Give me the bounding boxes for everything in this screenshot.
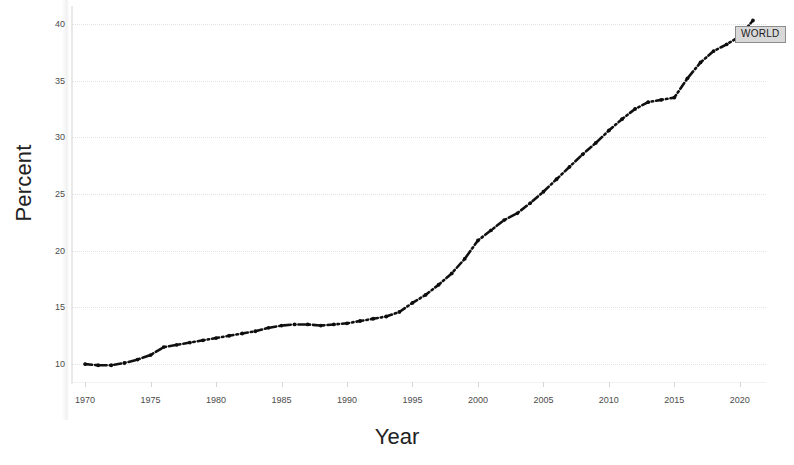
data-point (437, 283, 441, 287)
x-tick-mark (609, 382, 610, 387)
x-tick-label: 1975 (141, 395, 161, 405)
data-point (175, 343, 179, 347)
data-point (240, 332, 244, 336)
x-tick-mark (740, 382, 741, 387)
data-point (646, 100, 650, 104)
data-point (188, 341, 192, 345)
data-point (293, 323, 297, 327)
data-point (686, 76, 690, 80)
data-point (463, 257, 467, 261)
data-point (672, 96, 676, 100)
x-tick-mark (412, 382, 413, 387)
x-tick-label: 1980 (206, 395, 226, 405)
x-tick-label: 1985 (271, 395, 291, 405)
series-world-path (85, 20, 753, 365)
x-axis-spine (72, 382, 766, 383)
data-point (555, 177, 559, 181)
data-point (280, 324, 284, 328)
x-tick-mark (347, 382, 348, 387)
x-tick-label: 2005 (533, 395, 553, 405)
x-axis-title: Year (0, 424, 794, 450)
data-point (149, 353, 153, 357)
y-axis-title: Percent (11, 123, 37, 243)
data-point (411, 301, 415, 305)
data-point (476, 239, 480, 243)
data-point (201, 338, 205, 342)
data-point (227, 334, 231, 338)
scan-edge-artifact (62, 0, 69, 420)
data-point (751, 19, 755, 23)
x-tick-label: 2015 (664, 395, 684, 405)
data-point (358, 319, 362, 323)
data-point (712, 49, 716, 53)
x-tick-label: 2020 (730, 395, 750, 405)
data-point (384, 315, 388, 319)
x-tick-label: 1995 (402, 395, 422, 405)
series-world-markers (83, 19, 755, 368)
chart-figure: Percent Year 10152025303540 197019751980… (0, 0, 794, 465)
data-point (345, 321, 349, 325)
x-tick-mark (151, 382, 152, 387)
data-point (214, 336, 218, 340)
x-tick-mark (85, 382, 86, 387)
data-point (371, 317, 375, 321)
data-point (96, 363, 100, 367)
data-point (568, 165, 572, 169)
data-point (267, 326, 271, 330)
data-point (253, 329, 257, 333)
y-tick-label: 25 (55, 189, 65, 199)
data-point (450, 271, 454, 275)
data-point (633, 107, 637, 111)
y-tick-label: 20 (55, 246, 65, 256)
data-point (659, 98, 663, 102)
data-point (306, 323, 310, 327)
data-point (83, 362, 87, 366)
data-point (594, 141, 598, 145)
data-point (620, 117, 624, 121)
data-point (424, 293, 428, 297)
x-tick-mark (674, 382, 675, 387)
data-point (109, 363, 113, 367)
data-point (122, 361, 126, 365)
x-tick-label: 1990 (337, 395, 357, 405)
data-point (542, 190, 546, 194)
series-label-world: WORLD (735, 26, 786, 43)
data-point (502, 218, 506, 222)
y-tick-label: 40 (55, 19, 65, 29)
data-point (489, 228, 493, 232)
y-tick-label: 10 (55, 359, 65, 369)
data-point (528, 201, 532, 205)
data-point (136, 358, 140, 362)
data-point (607, 129, 611, 133)
data-point (699, 61, 703, 65)
data-point (319, 324, 323, 328)
y-tick-label: 35 (55, 76, 65, 86)
y-tick-label: 30 (55, 132, 65, 142)
y-tick-label: 15 (55, 302, 65, 312)
data-point (397, 310, 401, 314)
x-tick-label: 1970 (75, 395, 95, 405)
data-point (162, 345, 166, 349)
series-world-line (72, 8, 766, 380)
x-tick-mark (282, 382, 283, 387)
x-tick-mark (543, 382, 544, 387)
x-tick-mark (216, 382, 217, 387)
x-tick-mark (478, 382, 479, 387)
data-point (725, 42, 729, 46)
data-point (332, 323, 336, 327)
x-tick-label: 2000 (468, 395, 488, 405)
plot-area: 10152025303540 1970197519801985199019952… (72, 8, 766, 380)
x-tick-label: 2010 (599, 395, 619, 405)
data-point (581, 152, 585, 156)
data-point (515, 211, 519, 215)
